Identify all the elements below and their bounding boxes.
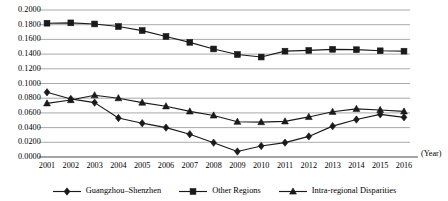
x-tick-label: 2016 <box>390 162 418 170</box>
data-point-marker <box>282 48 288 54</box>
data-point-marker <box>163 124 169 131</box>
data-point-marker <box>235 148 241 155</box>
legend-item[interactable]: Guangzhou–Shenzhen <box>52 186 161 197</box>
triangle-marker-icon <box>278 186 308 197</box>
data-point-marker <box>187 39 193 45</box>
series-group <box>44 20 408 155</box>
data-point-marker <box>258 142 264 149</box>
y-tick-label: 0.1600 <box>0 35 41 43</box>
data-point-marker <box>91 92 98 98</box>
data-point-marker <box>235 52 241 58</box>
chart-container: 0.00000.02000.04000.06000.08000.10000.12… <box>0 0 448 201</box>
legend-item[interactable]: Intra-regional Disparities <box>278 186 396 197</box>
data-point-marker <box>92 21 98 27</box>
data-point-marker <box>116 114 122 121</box>
square-marker-icon <box>178 186 208 197</box>
data-point-marker <box>92 99 98 106</box>
y-tick-label: 0.1800 <box>0 21 41 29</box>
data-point-marker <box>44 89 50 96</box>
data-point-marker <box>377 48 383 54</box>
legend-label: Guangzhou–Shenzhen <box>86 187 161 195</box>
y-tick-label: 0.0400 <box>0 124 41 132</box>
data-series <box>44 92 408 125</box>
y-tick-label: 0.2000 <box>0 6 41 14</box>
gridlines-group <box>39 10 418 157</box>
data-point-marker <box>306 48 312 54</box>
data-point-marker <box>353 105 360 111</box>
chart-plot-area <box>0 0 448 201</box>
data-point-marker <box>44 20 50 26</box>
y-tick-label: 0.1400 <box>0 50 41 58</box>
legend-label: Other Regions <box>212 187 261 195</box>
y-tick-label: 0.1200 <box>0 65 41 73</box>
data-point-marker <box>401 48 407 54</box>
y-tick-label: 0.0200 <box>0 138 41 146</box>
data-point-marker <box>187 131 193 138</box>
data-point-marker <box>211 46 217 52</box>
y-tick-label: 0.0600 <box>0 109 41 117</box>
series-line <box>47 95 404 122</box>
y-tick-label: 0.0800 <box>0 94 41 102</box>
data-point-marker <box>330 122 336 129</box>
data-point-marker <box>116 24 122 30</box>
data-point-marker <box>139 28 145 34</box>
data-point-marker <box>282 139 288 146</box>
data-point-marker <box>354 116 360 123</box>
x-axis-caption: (Year) <box>421 150 442 158</box>
data-point-marker <box>139 119 145 126</box>
series-line <box>47 23 404 57</box>
diamond-marker-icon <box>52 186 82 197</box>
legend-label: Intra-regional Disparities <box>312 187 396 195</box>
data-point-marker <box>401 114 407 121</box>
data-point-marker <box>68 20 74 26</box>
y-tick-label: 0.1000 <box>0 80 41 88</box>
data-point-marker <box>211 139 217 146</box>
data-point-marker <box>306 133 312 140</box>
data-point-marker <box>163 34 169 40</box>
chart-legend: Guangzhou–ShenzhenOther RegionsIntra-reg… <box>0 181 448 201</box>
data-point-marker <box>354 47 360 53</box>
legend-item[interactable]: Other Regions <box>178 186 261 197</box>
y-tick-label: 0.0000 <box>0 153 41 161</box>
data-point-marker <box>330 46 336 52</box>
data-point-marker <box>258 54 264 60</box>
